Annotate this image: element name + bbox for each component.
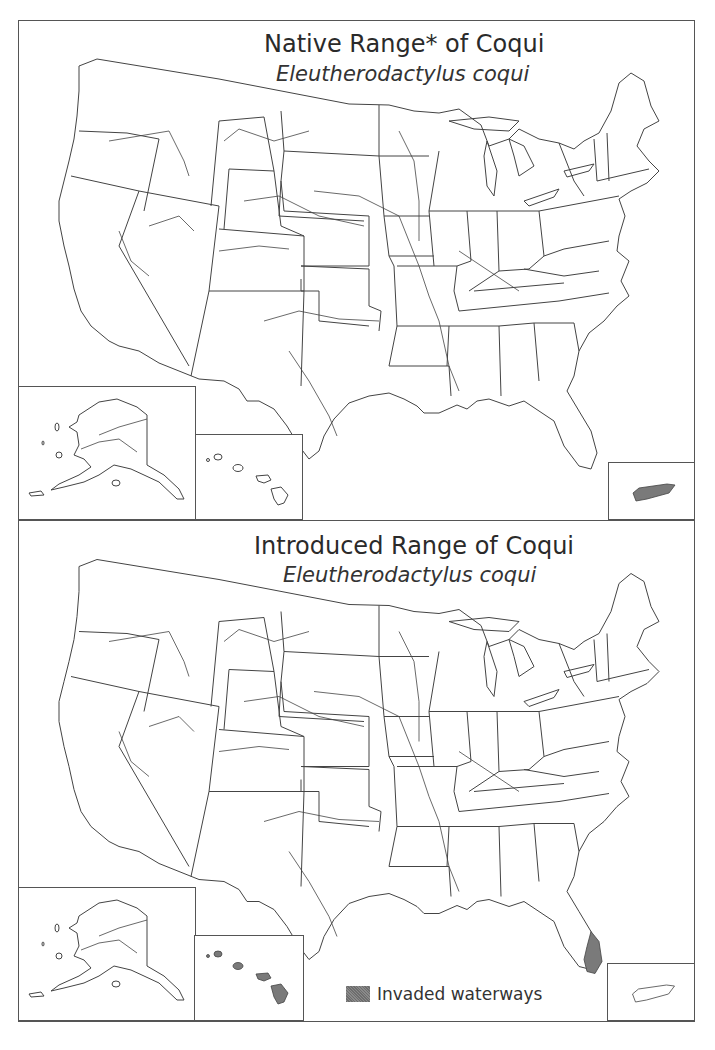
puerto-rico-map bbox=[609, 463, 694, 519]
alaska-map bbox=[19, 387, 195, 519]
map-legend: Invaded waterways bbox=[346, 984, 542, 1004]
legend-label: Invaded waterways bbox=[377, 984, 542, 1004]
hawaii-inset bbox=[194, 935, 304, 1021]
alaska-inset bbox=[18, 887, 196, 1021]
native-range-panel: Native Range* of Coqui Eleutherodactylus… bbox=[18, 20, 695, 521]
hawaii-map-invaded bbox=[195, 936, 303, 1020]
southeast-florida-invaded bbox=[584, 932, 602, 974]
alaska-map bbox=[19, 888, 195, 1020]
puerto-rico-map bbox=[608, 964, 694, 1020]
hawaii-inset bbox=[195, 434, 303, 520]
puerto-rico-inset bbox=[608, 462, 695, 520]
introduced-range-panel: Introduced Range of Coqui Eleutherodacty… bbox=[18, 520, 695, 1022]
puerto-rico-inset bbox=[607, 963, 695, 1021]
invaded-waterways-swatch bbox=[346, 986, 370, 1002]
hawaii-map bbox=[196, 435, 302, 519]
puerto-rico-shaded bbox=[633, 484, 675, 501]
alaska-inset bbox=[18, 386, 196, 520]
